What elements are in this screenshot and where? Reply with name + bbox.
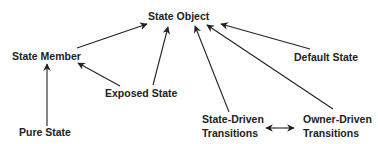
arrow-exposed-to-object (153, 27, 168, 85)
arrow-exposed-to-member (78, 63, 120, 86)
arrow-statedriven-to-object (195, 26, 229, 112)
arrow-member-to-object (77, 24, 147, 48)
diagram-canvas: State Object State Member Default State … (0, 0, 378, 144)
node-state-driven-line2: Transitions (202, 127, 258, 139)
node-owner-driven-line2: Transitions (303, 127, 359, 139)
node-pure-state: Pure State (19, 126, 71, 138)
arrow-default-to-object (221, 24, 310, 49)
node-state-member: State Member (12, 50, 81, 62)
node-state-driven-line1: State-Driven (202, 113, 264, 125)
node-state-object: State Object (148, 10, 209, 22)
node-exposed-state: Exposed State (105, 87, 177, 99)
node-default-state: Default State (294, 51, 358, 63)
node-owner-driven-line1: Owner-Driven (303, 113, 372, 125)
